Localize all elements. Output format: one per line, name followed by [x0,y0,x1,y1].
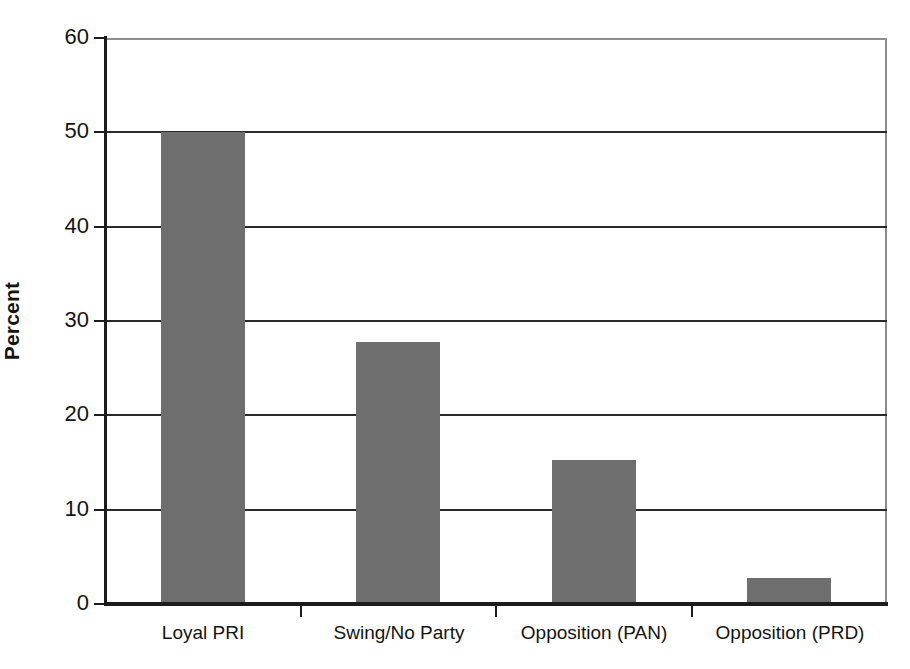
x-axis-tick [495,605,497,617]
y-axis-title: Percent [0,236,26,406]
y-tick-label: 50 [29,120,89,142]
y-tick-label: 40 [29,215,89,237]
x-tick-label: Swing/No Party [301,621,497,645]
bar-chart: Percent 0102030405060 Loyal PRISwing/No … [0,0,910,669]
y-tick-label: 0 [29,592,89,614]
y-tick-label: 10 [29,498,89,520]
y-axis-line [104,36,107,606]
x-axis-tick [691,605,693,617]
x-tick-label: Opposition (PRD) [692,621,888,645]
y-tick-label: 30 [29,309,89,331]
x-tick-label: Opposition (PAN) [496,621,692,645]
bar [747,578,831,604]
y-tick-label: 20 [29,403,89,425]
y-tick-label: 60 [29,26,89,48]
bar [356,342,440,604]
x-axis-tick [300,605,302,617]
bar [161,132,245,604]
x-tick-label: Loyal PRI [105,621,301,645]
bar [552,460,636,604]
